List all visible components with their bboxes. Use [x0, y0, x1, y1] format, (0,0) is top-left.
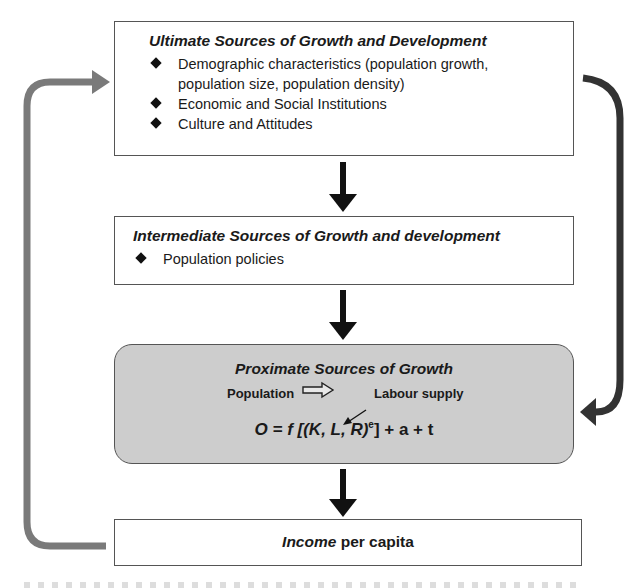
population-label: Population [227, 386, 294, 401]
bullet-text: Population policies [163, 251, 284, 267]
list-item: Demographic characteristics (population … [148, 54, 573, 94]
cropped-caption-strip [24, 582, 584, 588]
diamond-bullet-icon [150, 117, 161, 128]
down-arrow-icon [329, 162, 357, 212]
production-function-formula: O = f [(K, L, R)e] + a + t [115, 419, 573, 440]
proximate-sources-box: Proximate Sources of Growth Population L… [114, 344, 574, 464]
feedback-arrow-left-icon [27, 70, 110, 546]
intermediate-sources-list: Population policies [133, 249, 573, 269]
list-item: Culture and Attitudes [148, 114, 573, 134]
down-arrow-icon [329, 290, 357, 340]
diamond-bullet-icon [150, 57, 161, 68]
population-labour-flow: Population Labour supply [115, 386, 573, 406]
labour-supply-label: Labour supply [374, 386, 464, 401]
intermediate-sources-title: Intermediate Sources of Growth and devel… [133, 227, 573, 245]
intermediate-sources-box: Intermediate Sources of Growth and devel… [114, 216, 574, 285]
diamond-bullet-icon [150, 97, 161, 108]
bullet-text: Economic and Social Institutions [178, 96, 387, 112]
proximate-sources-title: Proximate Sources of Growth [115, 360, 573, 378]
feedback-arrow-right-icon [580, 78, 620, 426]
list-item: Economic and Social Institutions [148, 94, 573, 114]
bullet-text: Demographic characteristics (population … [178, 56, 488, 72]
ultimate-sources-box: Ultimate Sources of Growth and Developme… [114, 21, 574, 156]
formula-tail: ] + a + t [374, 420, 434, 439]
ultimate-sources-title: Ultimate Sources of Growth and Developme… [149, 32, 573, 50]
bullet-text: Culture and Attitudes [178, 116, 313, 132]
ultimate-sources-list: Demographic characteristics (population … [148, 54, 573, 134]
formula-main: O = f [(K, L, R) [255, 420, 369, 439]
bullet-text-continued: population size, population density) [178, 76, 405, 92]
down-arrow-icon [329, 469, 357, 517]
income-per-capita-box: Income per capita [114, 519, 582, 566]
diamond-bullet-icon [135, 252, 146, 263]
list-item: Population policies [133, 249, 573, 269]
income-label-italic: Income [282, 533, 336, 550]
income-label-rest: per capita [336, 533, 414, 550]
